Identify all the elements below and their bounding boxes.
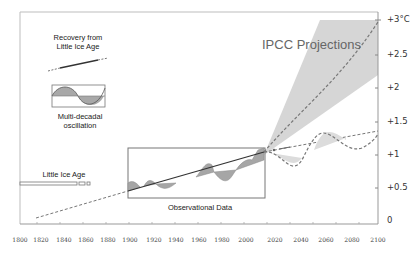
label-ipcc-projections: IPCC Projections: [262, 38, 362, 53]
little-ice-age-bar-seg3: [87, 182, 90, 185]
x-tick-label: 1900: [122, 236, 137, 243]
x-tick-label: 1920: [146, 236, 161, 243]
recovery-trend-dashed: [36, 191, 128, 218]
x-tick-label: 2060: [318, 236, 333, 243]
y-tick-label: +2: [387, 82, 400, 92]
x-tick-label: 2080: [344, 236, 359, 243]
x-tick-label: 1880: [100, 236, 115, 243]
y-tick-label: +0.5: [387, 182, 408, 192]
label-observational-data: Observational Data: [160, 204, 240, 213]
x-tick-label: 1860: [78, 236, 93, 243]
x-tick-label: 1800: [12, 236, 27, 243]
recovery-legend-solid: [60, 60, 98, 68]
x-tick-label: 1980: [214, 236, 229, 243]
little-ice-age-bar: [20, 182, 77, 185]
x-tick-label: 1840: [56, 236, 71, 243]
y-tick-label: +2.5: [387, 49, 408, 59]
label-oscillation: Multi-decadal oscillation: [52, 113, 108, 130]
x-tick-label: 1940: [168, 236, 183, 243]
x-tick-label: 1820: [33, 236, 48, 243]
observational-trend-line: [128, 152, 264, 191]
little-ice-age-bar-seg2: [79, 182, 85, 185]
y-tick-label: +3°C: [387, 14, 410, 24]
x-tick-label: 1960: [191, 236, 206, 243]
label-little-ice-age: Little Ice Age: [34, 171, 94, 180]
marker-dot: [273, 149, 276, 152]
observational-data-box: [128, 148, 265, 198]
x-tick-label: 2040: [293, 236, 308, 243]
recovery-legend-dashed: [48, 68, 60, 71]
y-tick-label: +1: [387, 149, 400, 159]
recovery-legend-dashed-end: [98, 58, 108, 60]
x-tick-label: 2000: [238, 236, 253, 243]
y-tick-label: +1.5: [387, 116, 408, 126]
x-tick-label: 2020: [267, 236, 282, 243]
label-recovery: Recovery from Little Ice Age: [48, 34, 108, 51]
x-tick-label: 2100: [370, 236, 385, 243]
y-tick-label: 0: [387, 215, 392, 225]
